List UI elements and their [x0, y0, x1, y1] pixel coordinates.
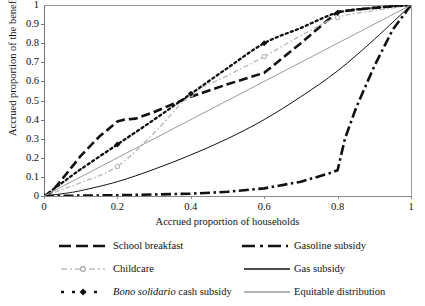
legend-swatch-wrap — [57, 286, 109, 298]
x-tick-label: 0.4 — [176, 202, 206, 212]
legend-swatch-dash-dot-circle — [57, 263, 109, 275]
series-marker-childcare — [115, 164, 119, 168]
x-tick-label: 1 — [396, 202, 425, 212]
legend-swatch-wrap — [238, 286, 290, 298]
chart-legend: School breakfastChildcareBono solidario … — [0, 236, 425, 306]
legend-swatch-solid-black — [238, 263, 290, 275]
x-tick-mark — [44, 196, 45, 199]
x-axis-title: Accrued proportion of households — [44, 216, 411, 227]
x-tick-label: 0.6 — [249, 202, 279, 212]
legend-swatch-dotted-diamond — [57, 286, 109, 298]
legend-item-school-breakfast[interactable]: School breakfast — [57, 236, 237, 256]
plot-area — [44, 5, 411, 196]
y-axis-title-text: Accrued proportion of the benefit — [7, 0, 18, 136]
legend-label: Childcare — [113, 263, 154, 275]
y-axis-title: Accrued proportion of the benefit — [7, 0, 18, 141]
legend-label: Equitable distribution — [294, 286, 385, 298]
axis-bottom-spine — [44, 196, 412, 197]
legend-item-childcare[interactable]: Childcare — [57, 259, 237, 279]
series-marker-childcare — [262, 54, 266, 58]
legend-swatch-long-dash — [57, 240, 109, 252]
legend-swatch-wrap — [238, 240, 290, 252]
legend-item-equitable-distribution[interactable]: Equitable distribution — [238, 282, 425, 302]
legend-marker-circle-icon — [81, 267, 86, 272]
legend-item-gas-subsidy[interactable]: Gas subsidy — [238, 259, 425, 279]
y-tick-label: 0.2 — [13, 153, 39, 163]
legend-label: Gas subsidy — [294, 263, 345, 275]
x-tick-mark — [264, 196, 265, 199]
x-tick-label: 0 — [29, 202, 59, 212]
x-tick-mark — [117, 196, 118, 199]
legend-item-gasoline-subsidy[interactable]: Gasoline subsidy — [238, 236, 425, 256]
series-canvas — [44, 5, 411, 196]
legend-swatch-wrap — [57, 240, 109, 252]
chart-root: 10.90.80.70.60.50.40.30.20.10 00.20.40.6… — [0, 0, 425, 306]
series-marker-childcare — [336, 15, 340, 19]
y-tick-label: 0.1 — [13, 172, 39, 182]
x-tick-mark — [191, 196, 192, 199]
legend-label: School breakfast — [113, 240, 183, 252]
series-line-equitable-distribution — [44, 5, 411, 196]
legend-label: Gasoline subsidy — [294, 240, 366, 252]
legend-item-bono-solidario-cash-subsidy[interactable]: Bono solidario cash subsidy — [57, 282, 237, 302]
legend-label: Bono solidario cash subsidy — [113, 286, 232, 298]
x-tick-label: 0.8 — [323, 202, 353, 212]
legend-swatch-wrap — [238, 263, 290, 275]
legend-swatch-solid-gray — [238, 286, 290, 298]
x-axis-title-text: Accrued proportion of households — [156, 216, 300, 227]
legend-swatch-dash-dot — [238, 240, 290, 252]
x-tick-mark — [338, 196, 339, 199]
legend-swatch-wrap — [57, 263, 109, 275]
legend-marker-diamond-icon — [80, 288, 87, 295]
x-tick-label: 0.2 — [102, 202, 132, 212]
x-tick-mark — [411, 196, 412, 199]
y-tick-label: 0 — [13, 191, 39, 201]
axis-right-spine — [411, 5, 412, 196]
